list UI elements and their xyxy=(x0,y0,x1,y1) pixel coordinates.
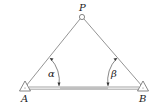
label-alpha: α xyxy=(48,68,55,79)
intersection-diagram: P A B α β xyxy=(0,0,158,108)
baseline-ab xyxy=(29,87,139,89)
point-p-circle-icon xyxy=(79,14,84,19)
label-p: P xyxy=(78,2,86,13)
label-a: A xyxy=(20,93,28,104)
label-beta: β xyxy=(110,68,117,79)
label-b: B xyxy=(138,93,146,104)
